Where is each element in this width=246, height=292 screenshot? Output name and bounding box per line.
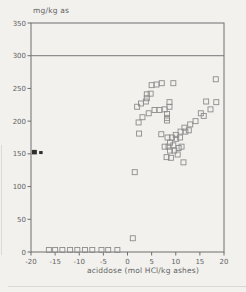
data-point-square (130, 236, 135, 241)
x-tick-label: -5 (100, 258, 107, 266)
data-point-square (204, 99, 209, 104)
offscale-marker-small (39, 151, 43, 154)
data-point-square (181, 160, 186, 165)
data-point-square (137, 131, 142, 136)
y-tick-label: 50 (17, 216, 26, 224)
x-tick-label: 10 (171, 258, 180, 266)
offscale-marker-filled-square (32, 150, 37, 155)
data-point-square (152, 108, 157, 113)
x-tick-label: -10 (74, 258, 85, 266)
x-tick-label: -20 (25, 258, 36, 266)
data-point-square (193, 119, 198, 124)
y-tick-label: 300 (13, 52, 26, 60)
x-tick-label: -15 (49, 258, 60, 266)
x-tick-label: 0 (125, 258, 129, 266)
data-point-square (136, 120, 141, 125)
data-point-square (157, 108, 162, 113)
y-tick-label: 350 (13, 20, 26, 28)
data-point-square (213, 77, 218, 82)
scatter-plot-figure: mg/kg as 050100150200250300350-20-15-10-… (0, 0, 246, 292)
plot-frame (31, 23, 224, 252)
data-point-square (146, 111, 151, 116)
x-tick-label: 5 (149, 258, 153, 266)
x-axis-label: aciddose (mol HCl/kg ashes) (50, 266, 236, 275)
data-point-square (171, 81, 176, 86)
y-tick-label: 250 (13, 85, 26, 93)
data-point-square (159, 81, 164, 86)
data-point-square (132, 170, 137, 175)
y-tick-label: 100 (13, 183, 26, 191)
data-point-square (154, 82, 159, 87)
scan-artifact-line (8, 286, 246, 287)
plot-canvas: 050100150200250300350-20-15-10-505101520 (0, 0, 246, 292)
y-tick-label: 200 (13, 118, 26, 126)
x-tick-label: 15 (195, 258, 204, 266)
data-point-square (159, 132, 164, 137)
y-tick-label: 150 (13, 150, 26, 158)
data-point-square (149, 83, 154, 88)
data-point-square (140, 115, 145, 120)
data-point-square (208, 107, 213, 112)
y-tick-label: 0 (22, 249, 26, 257)
data-point-square (214, 100, 219, 105)
x-tick-label: 20 (220, 258, 229, 266)
data-point-square (188, 122, 193, 127)
scan-artifact-line (1, 145, 2, 255)
